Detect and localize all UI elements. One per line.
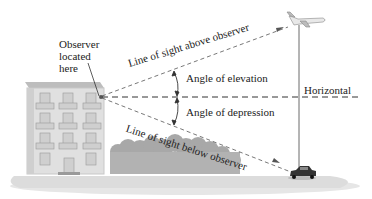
angle-of-elevation-label: Angle of elevation [186,73,268,84]
observer-label: Observer located here [59,38,99,74]
airplane-icon [287,12,325,27]
arrowhead-below [272,158,280,163]
arrowhead-above [276,27,284,32]
angle-of-depression-label: Angle of depression [186,107,275,118]
angle-of-depression-arc [172,98,179,125]
observer-building [25,82,104,175]
car-icon [288,166,316,180]
horizontal-label: Horizontal [304,85,351,96]
angle-of-elevation-arc [172,71,179,96]
angle-of-elevation-depression-diagram: Observer located here Line of sight abov… [0,0,372,199]
